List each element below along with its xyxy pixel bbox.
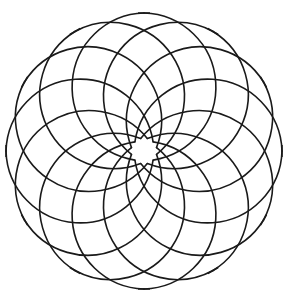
tip-tick: [261, 77, 267, 87]
tip-tick: [70, 29, 80, 35]
tip-ticks: [6, 13, 282, 289]
rosette-arc: [6, 151, 153, 223]
rosette-arc: [135, 79, 282, 151]
tip-tick: [208, 29, 218, 35]
rosette-arc: [144, 142, 216, 289]
rosette-arcs: [6, 13, 282, 289]
rosette-arc: [135, 151, 282, 223]
tip-tick: [22, 215, 28, 225]
rosette-arc: [72, 13, 144, 160]
tip-tick: [22, 77, 28, 87]
tip-tick: [261, 215, 267, 225]
rosette-arc: [72, 142, 144, 289]
rosette-arc: [6, 79, 153, 151]
rosette-figure: [0, 0, 285, 297]
rosette-arc: [144, 13, 216, 160]
tip-tick: [208, 268, 218, 274]
rosette-svg: [0, 0, 285, 297]
tip-tick: [70, 268, 80, 274]
